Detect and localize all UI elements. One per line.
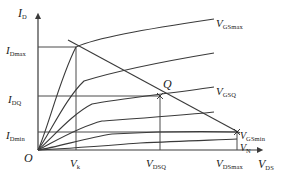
q-point-label: Q: [163, 78, 172, 90]
origin-label: O: [24, 152, 33, 164]
y-tick-label-idmax: IDmax: [6, 41, 26, 57]
x-tick-label-vdsmax: VDSmax: [216, 154, 243, 170]
y-axis-label: ID: [18, 4, 27, 20]
y-tick-label-idq: IDQ: [8, 90, 21, 106]
curve-2: [38, 53, 214, 150]
curve-label-vgsq: VGSQ: [216, 82, 236, 98]
x-axis-label: VDS: [258, 155, 274, 171]
curve-bottom: [38, 139, 237, 150]
figure-container: ID VDS O IDmax IDQ IDmin Vk VDSQ VDSmax …: [0, 0, 286, 181]
y-tick-label-idmin: IDmin: [6, 126, 25, 142]
curve-vgsmax: [38, 19, 214, 150]
dc-load-line: [68, 40, 240, 133]
curve-label-vn: VN: [240, 138, 251, 154]
x-tick-label-vk: Vk: [70, 154, 80, 170]
x-tick-label-vdsq: VDSQ: [146, 154, 166, 170]
curve-label-vgsmax: VGSmax: [216, 14, 243, 30]
